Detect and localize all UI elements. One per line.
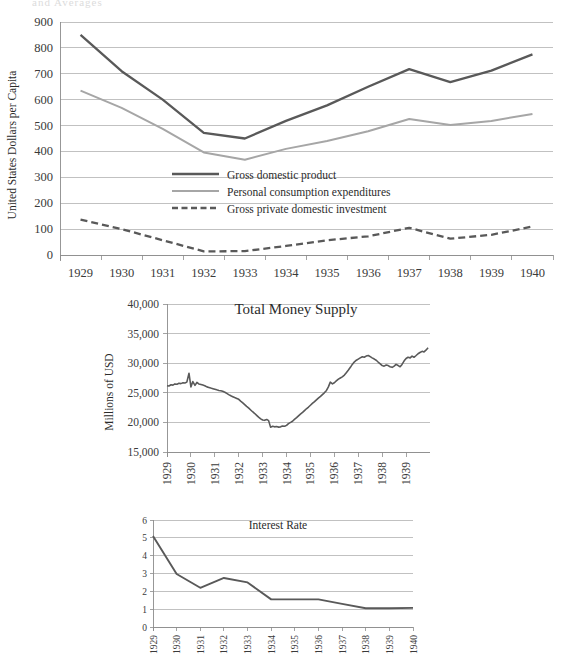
gdp-x-tick-label: 1931 (150, 266, 175, 280)
interest-series-line (153, 536, 413, 608)
interest-x-tick-label: 1931 (196, 635, 206, 654)
gdp-y-tick-label: 600 (34, 93, 53, 107)
gdp-x-tick-label: 1936 (356, 266, 381, 280)
interest-x-tick-label: 1935 (290, 635, 300, 654)
money-x-tick-label: 1930 (185, 462, 197, 485)
money-x-tick-label: 1938 (376, 462, 388, 485)
money-y-tick-label: 15,000 (127, 446, 159, 459)
money-x-tick-label: 1929 (161, 462, 173, 485)
money-x-tick-label: 1931 (209, 462, 221, 485)
money-supply-chart-svg: 15,00020,00025,00030,00035,00040,000 192… (100, 292, 440, 510)
gdp-series-2 (81, 220, 533, 252)
money-y-tick-label: 40,000 (127, 298, 159, 311)
gdp-y-tick-label: 300 (34, 170, 53, 184)
interest-x-tick-label: 1938 (361, 635, 371, 654)
money-axes (163, 304, 430, 457)
interest-y-tick-label: 1 (142, 605, 147, 615)
gdp-gridlines (60, 22, 553, 255)
money-y-tick-label: 20,000 (127, 416, 159, 429)
interest-x-tick-label: 1932 (219, 635, 229, 654)
gdp-series-lines (81, 35, 533, 251)
money-x-tick-label: 1936 (328, 462, 340, 485)
money-y-tick-label: 25,000 (127, 387, 159, 400)
gdp-y-tick-label: 900 (34, 15, 53, 29)
money-x-tick-label: 1939 (400, 462, 412, 485)
interest-x-tick-label: 1940 (409, 635, 419, 654)
interest-y-tick-label: 2 (142, 587, 147, 597)
gdp-chart-figure: 0100200300400500600700800900 19291930193… (0, 0, 565, 290)
gdp-x-tick-label: 1933 (232, 266, 257, 280)
gdp-x-tick-label: 1938 (438, 266, 463, 280)
gdp-legend-label-0: Gross domestic product (227, 169, 337, 182)
money-x-tick-label: 1935 (304, 462, 316, 485)
gdp-x-tick-label: 1934 (273, 266, 299, 280)
interest-x-tick-label: 1934 (267, 635, 277, 654)
gdp-legend-label-2: Gross private domestic investment (227, 203, 387, 216)
money-x-tick-labels: 1929193019311932193319341935193619371938… (161, 462, 412, 485)
gdp-y-tick-label: 400 (34, 144, 53, 158)
gdp-chart-svg: 0100200300400500600700800900 19291930193… (0, 0, 565, 290)
money-supply-chart-figure: 15,00020,00025,00030,00035,00040,000 192… (100, 292, 440, 510)
gdp-legend-label-1: Personal consumption expenditures (227, 186, 391, 199)
interest-x-tick-label: 1929 (149, 635, 159, 654)
money-series-line-path (167, 348, 428, 427)
interest-y-tick-label: 6 (142, 516, 147, 526)
gdp-x-tick-label: 1939 (479, 266, 504, 280)
gdp-y-tick-label: 500 (34, 119, 53, 133)
interest-series-line-path (153, 536, 413, 608)
money-y-tick-label: 30,000 (127, 357, 159, 370)
gdp-y-tick-label: 0 (47, 248, 53, 262)
interest-x-tick-label: 1930 (172, 635, 182, 654)
gdp-x-tick-label: 1929 (68, 266, 93, 280)
money-y-tick-label: 35,000 (127, 328, 159, 341)
gdp-y-tick-label: 800 (34, 41, 53, 55)
money-x-tick-label: 1937 (352, 462, 364, 485)
interest-rate-chart-figure: 0123456 19291930193119321933193419351936… (128, 512, 428, 657)
interest-x-tick-label: 1939 (385, 635, 395, 654)
interest-y-tick-labels: 0123456 (142, 516, 147, 633)
interest-gridlines (153, 520, 413, 627)
gdp-y-tick-label: 700 (34, 67, 53, 81)
gdp-y-tick-labels: 0100200300400500600700800900 (34, 15, 53, 262)
interest-y-tick-label: 0 (142, 623, 147, 633)
interest-y-tick-label: 3 (142, 569, 147, 579)
gdp-y-tick-label: 200 (34, 196, 53, 210)
interest-rate-chart-title: Interest Rate (249, 519, 307, 531)
money-gridlines (167, 304, 430, 452)
money-x-tick-label: 1934 (281, 462, 293, 485)
gdp-x-tick-label: 1932 (191, 266, 216, 280)
money-x-tick-label: 1933 (257, 462, 269, 485)
interest-x-tick-label: 1937 (338, 635, 348, 654)
interest-axes (150, 520, 413, 631)
gdp-x-tick-label: 1940 (520, 266, 545, 280)
figure-page: and Averages 010020030040050060070080090… (0, 0, 565, 657)
interest-x-tick-labels: 1929193019311932193319341935193619371938… (149, 635, 419, 654)
gdp-y-axis-title: United States Dollars per Capita (6, 71, 19, 220)
gdp-x-tick-label: 1937 (397, 266, 422, 280)
gdp-series-1 (81, 91, 533, 160)
interest-x-tick-label: 1933 (243, 635, 253, 654)
gdp-axes (60, 22, 553, 261)
interest-rate-chart-svg: 0123456 19291930193119321933193419351936… (128, 512, 428, 657)
gdp-y-tick-label: 100 (34, 222, 53, 236)
money-y-axis-title: Millions of USD (103, 353, 115, 430)
gdp-x-tick-labels: 1929193019311932193319341935193619371938… (68, 266, 545, 280)
money-x-tick-label: 1932 (233, 462, 245, 485)
gdp-legend: Gross domestic productPersonal consumpti… (172, 169, 391, 216)
gdp-x-tick-label: 1935 (315, 266, 340, 280)
interest-y-tick-label: 4 (142, 551, 147, 561)
money-series-line (167, 348, 428, 427)
money-supply-chart-title: Total Money Supply (234, 301, 358, 317)
money-y-tick-labels: 15,00020,00025,00030,00035,00040,000 (127, 298, 159, 459)
interest-y-tick-label: 5 (142, 533, 147, 543)
gdp-x-tick-label: 1930 (109, 266, 134, 280)
interest-x-tick-label: 1936 (314, 635, 324, 654)
